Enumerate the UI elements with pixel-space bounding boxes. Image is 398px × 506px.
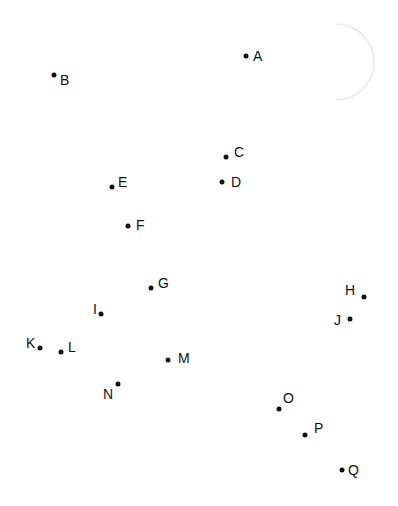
point-j-dot — [348, 317, 353, 322]
point-i-label: I — [93, 302, 97, 316]
point-a-dot — [244, 54, 249, 59]
point-f-label: F — [136, 218, 145, 232]
point-a-label: A — [253, 49, 262, 63]
point-o-label: O — [283, 391, 294, 405]
point-d-label: D — [231, 175, 241, 189]
point-e-label: E — [118, 175, 127, 189]
point-b-label: B — [60, 73, 69, 87]
point-b-dot — [52, 73, 57, 78]
point-f-dot — [126, 224, 131, 229]
point-e-dot — [110, 185, 115, 190]
point-d-dot — [220, 180, 225, 185]
point-c-dot — [224, 155, 229, 160]
point-g-label: G — [158, 276, 169, 290]
point-m-dot — [166, 358, 171, 363]
point-o-dot — [277, 407, 282, 412]
point-q-dot — [340, 468, 345, 473]
point-m-label: M — [178, 351, 190, 365]
point-p-label: P — [314, 421, 323, 435]
point-h-label: H — [345, 283, 355, 297]
point-l-dot — [59, 350, 64, 355]
point-l-label: L — [68, 340, 76, 354]
diagram-canvas: ABCDEFGHIJKLMNOPQ — [0, 0, 398, 506]
point-i-dot — [99, 312, 104, 317]
point-p-dot — [303, 433, 308, 438]
point-n-label: N — [103, 387, 113, 401]
point-q-label: Q — [348, 463, 359, 477]
point-h-dot — [362, 295, 367, 300]
point-k-dot — [38, 346, 43, 351]
point-k-label: K — [26, 336, 35, 350]
point-n-dot — [116, 382, 121, 387]
point-j-label: J — [334, 313, 341, 327]
point-c-label: C — [234, 145, 244, 159]
point-g-dot — [149, 286, 154, 291]
